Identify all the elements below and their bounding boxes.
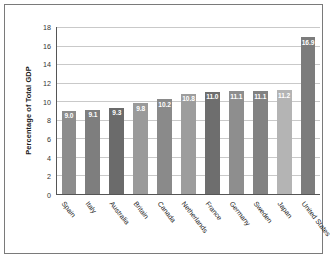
bar-slot: 9.3 [105, 27, 129, 194]
bar[interactable]: 16.9 [301, 37, 316, 194]
x-axis-label: Sweden [252, 200, 273, 224]
x-label-slot: Spain [56, 197, 80, 259]
bar-series: 9.09.19.39.810.210.811.011.111.111.216.9 [57, 27, 320, 194]
bar-slot: 16.9 [296, 27, 320, 194]
x-axis-category-labels: SpainItalyAustraliaBritainCanadaNetherla… [56, 197, 320, 259]
y-axis-tick: 2 [47, 172, 51, 181]
bar-slot: 11.1 [248, 27, 272, 194]
bar-value-label: 9.8 [133, 105, 148, 112]
y-axis-tick: 4 [47, 153, 51, 162]
bar-slot: 9.1 [81, 27, 105, 194]
y-axis-tick: 10 [43, 97, 51, 106]
x-label-slot: Netherlands [176, 197, 200, 259]
x-axis-label: Britain [132, 200, 150, 220]
x-label-slot: Italy [80, 197, 104, 259]
x-label-slot: Australia [104, 197, 128, 259]
bar-value-label: 16.9 [301, 39, 316, 46]
x-axis-label: Japan [276, 200, 293, 219]
bar[interactable]: 9.1 [85, 110, 100, 194]
x-axis-label: Italy [84, 200, 97, 214]
bar-value-label: 10.8 [181, 95, 196, 102]
y-axis-tick: 16 [43, 41, 51, 50]
bar[interactable]: 11.1 [229, 91, 244, 194]
bar[interactable]: 9.8 [133, 103, 148, 194]
y-axis-tick-labels: 181614121086420 [39, 27, 53, 195]
x-axis-label: Spain [60, 200, 77, 218]
x-label-slot: Canada [152, 197, 176, 259]
x-label-slot: Sweden [248, 197, 272, 259]
bar-value-label: 11.2 [277, 92, 292, 99]
bar[interactable]: 11.0 [205, 92, 220, 194]
bar-slot: 11.0 [200, 27, 224, 194]
y-axis-tick: 0 [47, 191, 51, 200]
bar-slot: 9.8 [129, 27, 153, 194]
bar-slot: 10.2 [153, 27, 177, 194]
bar[interactable]: 9.3 [109, 108, 124, 194]
bar-value-label: 11.1 [253, 93, 268, 100]
x-axis-label: France [204, 200, 223, 221]
x-label-slot: Britain [128, 197, 152, 259]
x-label-slot: France [200, 197, 224, 259]
bar-value-label: 11.0 [205, 93, 220, 100]
bar-slot: 11.1 [224, 27, 248, 194]
bar[interactable]: 11.1 [253, 91, 268, 194]
bar[interactable]: 10.8 [181, 94, 196, 194]
y-axis-tick: 14 [43, 60, 51, 69]
bar-value-label: 9.1 [85, 111, 100, 118]
x-label-slot: Germany [224, 197, 248, 259]
x-axis-label: United States [300, 200, 331, 237]
x-label-slot: United States [296, 197, 320, 259]
bar[interactable]: 11.2 [277, 90, 292, 194]
plot-wrapper: 181614121086420 9.09.19.39.810.210.811.0… [39, 27, 320, 195]
x-label-slot: Japan [272, 197, 296, 259]
bar[interactable]: 9.0 [62, 111, 77, 195]
y-axis-tick: 6 [47, 135, 51, 144]
y-axis-title-text: Percentage of Total GDP [24, 66, 33, 154]
bar-slot: 9.0 [57, 27, 81, 194]
y-axis-tick: 12 [43, 79, 51, 88]
y-axis-tick: 18 [43, 23, 51, 32]
bar-value-label: 10.2 [157, 101, 172, 108]
y-axis-tick: 8 [47, 116, 51, 125]
bar[interactable]: 10.2 [157, 99, 172, 194]
bar-value-label: 9.0 [62, 112, 77, 119]
x-axis-label: Canada [156, 200, 177, 224]
bar-slot: 10.8 [177, 27, 201, 194]
chart-frame: Percentage of Total GDP 181614121086420 … [4, 4, 323, 254]
bar-value-label: 11.1 [229, 93, 244, 100]
y-axis-title: Percentage of Total GDP [21, 45, 35, 175]
bar-slot: 11.2 [272, 27, 296, 194]
bar-value-label: 9.3 [109, 109, 124, 116]
plot-area: 9.09.19.39.810.210.811.011.111.111.216.9 [56, 27, 320, 195]
